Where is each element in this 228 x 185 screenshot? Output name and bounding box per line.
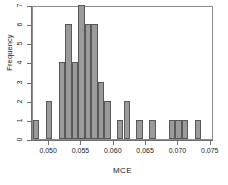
histogram-bar (149, 120, 155, 139)
histogram-bar (182, 120, 188, 139)
x-axis-tick (177, 140, 178, 145)
y-axis-tick-label: 3 (16, 75, 23, 89)
plot-area (32, 6, 213, 140)
x-axis-tick (210, 140, 211, 145)
y-axis-title: Frequency (5, 18, 14, 88)
x-axis-title: MCE (32, 166, 213, 175)
y-axis-tick-label: 0 (16, 133, 23, 147)
y-axis-tick (27, 83, 32, 84)
x-axis-tick (145, 140, 146, 145)
histogram-bar (136, 120, 142, 139)
histogram-bar (33, 120, 39, 139)
histogram-bar (46, 101, 52, 139)
x-axis-tick-label: 0.055 (63, 147, 97, 154)
y-axis-tick (27, 121, 32, 122)
x-axis-tick-label: 0.060 (96, 147, 130, 154)
y-axis-tick-label: 7 (16, 0, 23, 13)
x-axis-tick-label: 0.050 (31, 147, 65, 154)
x-axis-tick (80, 140, 81, 145)
y-axis-tick (27, 63, 32, 64)
histogram-bar (124, 101, 130, 139)
x-axis-tick-label: 0.065 (128, 147, 162, 154)
y-axis-tick-label: 1 (16, 113, 23, 127)
x-axis-tick-label: 0.070 (160, 147, 194, 154)
y-axis-tick (27, 6, 32, 7)
y-axis-tick-label: 2 (16, 94, 23, 108)
y-axis-tick-label: 5 (16, 37, 23, 51)
y-axis-tick (27, 140, 32, 141)
y-axis-tick-label: 6 (16, 18, 23, 32)
histogram-bars (33, 7, 212, 139)
x-axis-line (32, 140, 213, 141)
x-axis-tick (113, 140, 114, 145)
x-axis-tick-label: 0.075 (193, 147, 227, 154)
y-axis-tick (27, 102, 32, 103)
histogram-bar (104, 101, 110, 139)
y-axis-tick (27, 25, 32, 26)
histogram-figure: Frequency 01234567 0.0500.0550.0600.0650… (0, 0, 228, 185)
x-axis-tick (48, 140, 49, 145)
y-axis-tick (27, 44, 32, 45)
histogram-bar (195, 120, 201, 139)
y-axis-tick-label: 4 (16, 56, 23, 70)
